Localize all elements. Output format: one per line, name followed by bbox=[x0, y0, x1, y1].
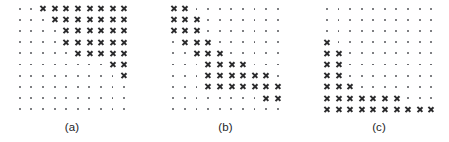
grid-cell bbox=[95, 25, 107, 36]
grid-cell bbox=[367, 25, 379, 36]
cross-icon bbox=[121, 61, 128, 68]
cross-icon bbox=[121, 16, 128, 23]
grid-cell bbox=[379, 70, 391, 81]
dot-icon bbox=[77, 75, 79, 77]
grid-cell bbox=[356, 59, 368, 70]
dot-icon bbox=[184, 97, 186, 99]
grid-cell bbox=[107, 81, 119, 92]
cross-icon bbox=[216, 61, 223, 68]
dot-icon bbox=[30, 52, 32, 54]
grid-cell bbox=[191, 81, 203, 92]
dot-icon bbox=[230, 19, 232, 21]
grid-cell bbox=[333, 104, 345, 115]
grid-cell bbox=[321, 14, 333, 25]
grid-cell bbox=[179, 3, 191, 14]
grid-cell bbox=[37, 48, 49, 59]
dot-icon bbox=[30, 64, 32, 66]
grid-cell bbox=[402, 81, 414, 92]
cross-icon bbox=[335, 72, 342, 79]
grid-cell bbox=[391, 14, 403, 25]
grid-cell bbox=[168, 104, 180, 115]
dot-icon bbox=[88, 86, 90, 88]
cross-icon bbox=[346, 106, 353, 113]
grid-cell bbox=[107, 48, 119, 59]
dot-icon bbox=[254, 64, 256, 66]
dot-icon bbox=[430, 97, 432, 99]
dot-icon bbox=[88, 64, 90, 66]
cross-icon bbox=[393, 106, 400, 113]
dot-icon bbox=[265, 41, 267, 43]
dot-icon bbox=[384, 64, 386, 66]
dot-icon bbox=[372, 41, 374, 43]
dot-icon bbox=[219, 8, 221, 10]
dot-icon bbox=[372, 8, 374, 10]
grid-cell bbox=[95, 81, 107, 92]
grid-cell bbox=[414, 25, 426, 36]
cross-icon bbox=[193, 27, 200, 34]
cross-icon bbox=[393, 95, 400, 102]
grid-cell bbox=[191, 93, 203, 104]
grid-cell bbox=[202, 14, 214, 25]
dot-icon bbox=[19, 97, 21, 99]
dot-icon bbox=[242, 19, 244, 21]
dot-icon bbox=[54, 52, 56, 54]
grid-cell bbox=[425, 81, 437, 92]
dot-icon bbox=[219, 41, 221, 43]
dot-icon bbox=[395, 8, 397, 10]
grid-cell bbox=[344, 25, 356, 36]
cross-icon bbox=[262, 83, 269, 90]
grid-cell bbox=[202, 25, 214, 36]
grid-cell bbox=[168, 48, 180, 59]
grid-cell bbox=[391, 25, 403, 36]
cross-icon bbox=[205, 39, 212, 46]
cross-icon bbox=[205, 72, 212, 79]
cross-icon bbox=[228, 72, 235, 79]
grid-cell bbox=[344, 59, 356, 70]
grid-cell bbox=[321, 70, 333, 81]
cross-icon bbox=[97, 5, 104, 12]
cross-icon bbox=[239, 72, 246, 79]
grid-cell bbox=[367, 48, 379, 59]
grid-cell bbox=[107, 104, 119, 115]
grid-cell bbox=[237, 104, 249, 115]
grid-cell bbox=[391, 70, 403, 81]
dot-icon bbox=[77, 86, 79, 88]
grid-cell bbox=[214, 104, 226, 115]
cross-icon bbox=[323, 106, 330, 113]
dot-icon bbox=[65, 86, 67, 88]
dot-icon bbox=[395, 86, 397, 88]
grid-cell bbox=[168, 25, 180, 36]
grid-cell bbox=[107, 25, 119, 36]
grid-cell bbox=[367, 59, 379, 70]
grid-cell bbox=[118, 48, 130, 59]
grid-cell bbox=[118, 25, 130, 36]
grid-cell bbox=[237, 93, 249, 104]
dot-icon bbox=[207, 8, 209, 10]
grid-cell bbox=[168, 59, 180, 70]
dot-icon bbox=[277, 41, 279, 43]
grid-cell bbox=[60, 59, 72, 70]
grid-cell bbox=[333, 59, 345, 70]
grid-cell bbox=[14, 93, 26, 104]
dot-icon bbox=[349, 30, 351, 32]
dot-icon bbox=[219, 108, 221, 110]
grid-cell bbox=[26, 48, 38, 59]
dot-icon bbox=[361, 64, 363, 66]
cross-icon bbox=[86, 5, 93, 12]
grid-cell bbox=[37, 70, 49, 81]
grid-cell bbox=[414, 37, 426, 48]
cross-icon bbox=[193, 39, 200, 46]
grid-cell bbox=[26, 25, 38, 36]
panel-a-grid-wrap bbox=[14, 0, 130, 115]
grid-cell bbox=[249, 59, 261, 70]
grid-cell bbox=[14, 14, 26, 25]
cross-icon bbox=[39, 5, 46, 12]
dot-icon bbox=[19, 41, 21, 43]
grid-cell bbox=[367, 70, 379, 81]
grid-cell bbox=[60, 70, 72, 81]
panel-c-label: (c) bbox=[372, 121, 386, 133]
grid-cell bbox=[321, 3, 333, 14]
grid-cell bbox=[26, 59, 38, 70]
dot-icon bbox=[430, 8, 432, 10]
grid-cell bbox=[414, 14, 426, 25]
